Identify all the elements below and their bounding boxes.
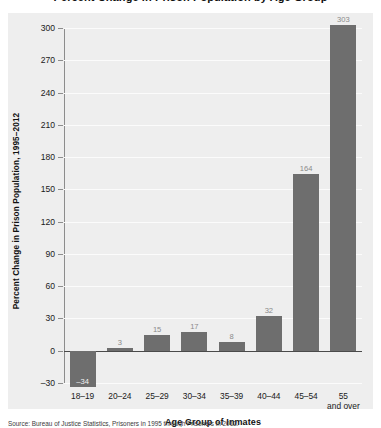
bar-value-label: –34 — [76, 377, 89, 386]
bar-value-label: 15 — [153, 325, 161, 334]
y-axis-tick-label: 270 — [41, 55, 55, 65]
bar[interactable] — [330, 25, 356, 351]
y-axis-tick-label: 300 — [41, 23, 55, 33]
x-axis-tick-label: 20–24 — [108, 391, 131, 401]
bar-value-label: 303 — [337, 15, 350, 24]
y-axis-tick — [58, 28, 63, 29]
x-axis-tick-label: 35–39 — [220, 391, 243, 401]
bar[interactable] — [181, 332, 207, 350]
y-axis-tick — [58, 93, 63, 94]
bar-group[interactable]: 3240–44 — [250, 28, 287, 383]
y-axis-tick — [58, 286, 63, 287]
chart-panel: Percent Change in Prison Population, 199… — [8, 13, 373, 409]
bar-value-label: 8 — [230, 332, 234, 341]
x-axis-tick-label: 55and over — [327, 391, 360, 411]
bar-group[interactable]: 16445–54 — [288, 28, 325, 383]
y-axis-tick — [58, 351, 63, 352]
x-axis-tick-label: 45–54 — [294, 391, 317, 401]
bar[interactable] — [107, 348, 133, 351]
y-axis-tick-label: 120 — [41, 217, 55, 227]
y-axis-tick — [58, 189, 63, 190]
bar[interactable] — [293, 174, 319, 350]
y-axis-tick — [58, 383, 63, 384]
bar-group[interactable]: 30355and over — [325, 28, 362, 383]
x-axis-tick-label: 25–29 — [145, 391, 168, 401]
bar-value-label: 3 — [118, 338, 122, 347]
y-axis-tick-label: 0 — [50, 346, 55, 356]
plot-area: 3002702402101801501209060300–30–3418–193… — [64, 28, 362, 383]
y-axis-tick-label: 240 — [41, 88, 55, 98]
y-axis-tick-label: 180 — [41, 152, 55, 162]
x-axis-tick-label: 18–19 — [71, 391, 94, 401]
chart-title: Percent Change in Prison Population by A… — [0, 0, 381, 3]
bar-group[interactable]: –3418–19 — [64, 28, 101, 383]
bar-value-label: 32 — [265, 306, 273, 315]
y-axis-tick-label: 30 — [45, 313, 55, 323]
bar-group[interactable]: 1730–34 — [176, 28, 213, 383]
figure-container: Percent Change in Prison Population by A… — [0, 0, 381, 428]
y-axis-tick — [58, 157, 63, 158]
y-axis-tick-label: 90 — [45, 249, 55, 259]
gridline — [64, 383, 362, 384]
bar[interactable] — [256, 316, 282, 350]
y-axis-tick — [58, 60, 63, 61]
bar-group[interactable]: 1525–29 — [139, 28, 176, 383]
y-axis-tick-label: –30 — [41, 378, 55, 388]
bar-value-label: 17 — [190, 322, 198, 331]
bar-group[interactable]: 835–39 — [213, 28, 250, 383]
y-axis-tick-label: 150 — [41, 184, 55, 194]
x-axis-tick-label: 40–44 — [257, 391, 280, 401]
bar[interactable] — [219, 342, 245, 351]
y-axis-tick-label: 60 — [45, 281, 55, 291]
bar[interactable] — [144, 335, 170, 351]
y-axis-tick — [58, 125, 63, 126]
y-axis-title: Percent Change in Prison Population, 199… — [8, 13, 24, 409]
bar-group[interactable]: 320–24 — [101, 28, 138, 383]
y-axis-tick — [58, 254, 63, 255]
y-axis-tick — [58, 222, 63, 223]
y-axis-tick-label: 210 — [41, 120, 55, 130]
y-axis-tick — [58, 318, 63, 319]
bar-value-label: 164 — [300, 164, 313, 173]
x-axis-tick-label: 30–34 — [183, 391, 206, 401]
source-note: Source: Bureau of Justice Statistics, Pr… — [8, 420, 373, 427]
